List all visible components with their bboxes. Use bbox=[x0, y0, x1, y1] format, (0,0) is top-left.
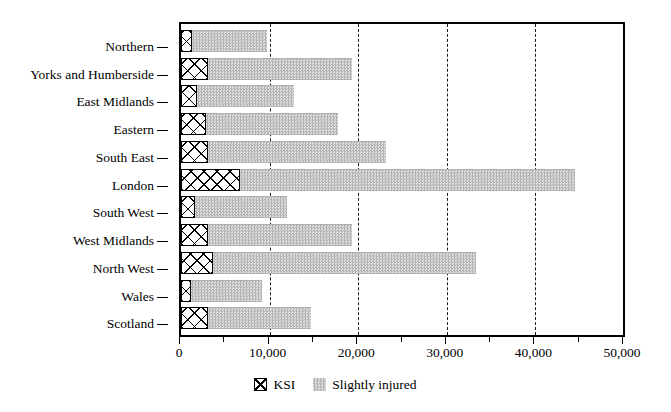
bar-row bbox=[181, 169, 625, 191]
bar-segment-ksi bbox=[181, 85, 197, 107]
bar-row bbox=[181, 30, 625, 52]
bar-row bbox=[181, 58, 625, 80]
bar-segment-slightly-injured bbox=[213, 252, 476, 274]
bar-segment-slightly-injured bbox=[206, 113, 338, 135]
y-axis-tick bbox=[157, 102, 168, 103]
bar-segment-ksi bbox=[181, 58, 208, 80]
bar-segment-slightly-injured bbox=[208, 58, 352, 80]
x-axis-major-tick bbox=[533, 337, 534, 344]
bar-segment-slightly-injured bbox=[240, 169, 575, 191]
x-axis-tick-label: 10,000 bbox=[249, 345, 286, 360]
bar-row bbox=[181, 141, 625, 163]
legend-item-ksi[interactable]: KSI bbox=[254, 377, 295, 392]
horizontal-stacked-bar-chart: NorthernYorks and HumbersideEast Midland… bbox=[0, 0, 671, 412]
x-axis-tick-label: 0 bbox=[176, 345, 183, 360]
bar-segment-slightly-injured bbox=[195, 196, 287, 218]
legend-item-slightly-injured[interactable]: Slightly injured bbox=[313, 377, 416, 392]
bar-segment-slightly-injured bbox=[208, 224, 352, 246]
y-axis-tick bbox=[157, 269, 168, 270]
x-axis-minor-tick bbox=[312, 337, 313, 342]
x-axis-minor-tick bbox=[223, 337, 224, 342]
x-axis: 010,00020,00030,00040,00050,000 bbox=[179, 337, 625, 367]
x-axis-tick-label: 20,000 bbox=[338, 345, 375, 360]
x-axis-tick-label: 30,000 bbox=[426, 345, 463, 360]
bar-segment-ksi bbox=[181, 113, 206, 135]
x-axis-tick-label: 40,000 bbox=[515, 345, 552, 360]
bar-row bbox=[181, 224, 625, 246]
bar-segment-ksi bbox=[181, 280, 191, 302]
y-axis-tick bbox=[157, 158, 168, 159]
x-axis-major-tick bbox=[445, 337, 446, 344]
y-axis-tick bbox=[157, 186, 168, 187]
legend-label: KSI bbox=[273, 377, 295, 392]
bar-row bbox=[181, 280, 625, 302]
bar-row bbox=[181, 252, 625, 274]
x-axis-minor-tick bbox=[578, 337, 579, 342]
bar-segment-ksi bbox=[181, 307, 208, 329]
y-axis-tick bbox=[157, 75, 168, 76]
y-axis-tick bbox=[157, 130, 168, 131]
bar-segment-slightly-injured bbox=[197, 85, 294, 107]
bar-segment-ksi bbox=[181, 141, 208, 163]
y-axis-tick bbox=[157, 241, 168, 242]
bar-row bbox=[181, 307, 625, 329]
bar-row bbox=[181, 85, 625, 107]
y-axis-label-london: London bbox=[112, 179, 154, 193]
y-axis-label-scotland: Scotland bbox=[107, 317, 154, 331]
x-axis-major-tick bbox=[179, 337, 180, 344]
y-axis-label-west-midlands: West Midlands bbox=[73, 234, 154, 248]
bar-segment-ksi bbox=[181, 196, 195, 218]
bar-segment-ksi bbox=[181, 252, 213, 274]
y-axis-label-yorks-and-humberside: Yorks and Humberside bbox=[30, 68, 154, 82]
y-axis-tick bbox=[157, 324, 168, 325]
y-axis-label-east-midlands: East Midlands bbox=[76, 95, 154, 109]
x-axis-tick-label: 50,000 bbox=[603, 345, 640, 360]
chart-legend: KSISlightly injured bbox=[0, 372, 671, 396]
bar-segment-slightly-injured bbox=[208, 141, 385, 163]
bar-segment-slightly-injured bbox=[191, 280, 262, 302]
plot-area bbox=[179, 22, 625, 337]
bar-row bbox=[181, 113, 625, 135]
y-axis-tick bbox=[157, 213, 168, 214]
bar-segment-ksi bbox=[181, 224, 208, 246]
x-axis-major-tick bbox=[622, 337, 623, 344]
y-axis-tick bbox=[157, 297, 168, 298]
bar-segment-ksi bbox=[181, 169, 240, 191]
x-axis-major-tick bbox=[356, 337, 357, 344]
y-axis-label-north-west: North West bbox=[93, 262, 154, 276]
gray-dotted-swatch bbox=[313, 378, 326, 391]
x-axis-minor-tick bbox=[401, 337, 402, 342]
x-axis-minor-tick bbox=[489, 337, 490, 342]
y-axis-tick bbox=[157, 47, 168, 48]
legend-label: Slightly injured bbox=[332, 377, 416, 392]
y-axis-category-labels: NorthernYorks and HumbersideEast Midland… bbox=[0, 30, 168, 335]
crosshatch-swatch bbox=[254, 378, 267, 391]
y-axis-label-wales: Wales bbox=[121, 290, 154, 304]
y-axis-label-south-west: South West bbox=[93, 206, 154, 220]
bar-segment-slightly-injured bbox=[208, 307, 312, 329]
bar-segment-ksi bbox=[181, 30, 192, 52]
x-axis-major-tick bbox=[268, 337, 269, 344]
y-axis-label-northern: Northern bbox=[105, 40, 154, 54]
bar-segment-slightly-injured bbox=[192, 30, 267, 52]
bar-row bbox=[181, 196, 625, 218]
y-axis-label-eastern: Eastern bbox=[114, 123, 154, 137]
y-axis-label-south-east: South East bbox=[96, 151, 154, 165]
